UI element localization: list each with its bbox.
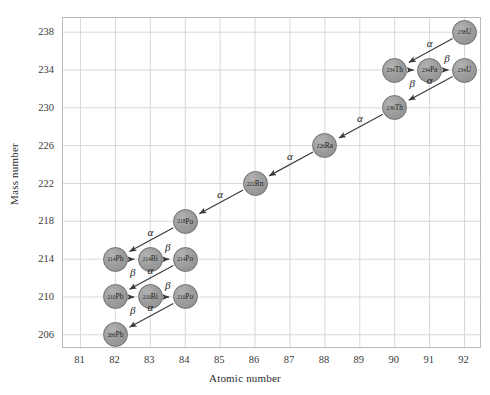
nuclide-symbol: Ra xyxy=(325,142,333,149)
y-tick-238: 238 xyxy=(22,26,54,37)
nuclide-symbol: Bi xyxy=(151,293,158,300)
x-tick-88: 88 xyxy=(319,354,330,365)
x-tick-91: 91 xyxy=(423,354,434,365)
nuclide-symbol: Pb xyxy=(116,255,124,262)
nuclide-node-U238: 238U xyxy=(452,20,477,45)
x-tick-87: 87 xyxy=(284,354,295,365)
nuclide-node-Po218: 218Po xyxy=(173,209,198,234)
decay-mode-label-Pa234-to-U234: β xyxy=(444,52,449,64)
x-tick-90: 90 xyxy=(388,354,399,365)
x-tick-92: 92 xyxy=(458,354,469,365)
decay-mode-label-Bi210-to-Po210: β xyxy=(165,279,170,291)
y-tick-210: 210 xyxy=(22,290,54,301)
x-axis-title: Atomic number xyxy=(0,372,490,384)
nuclide-symbol: Pb xyxy=(116,331,124,338)
nuclide-node-Rn222: 222Rn xyxy=(243,171,268,196)
nuclide-symbol: Po xyxy=(185,293,193,300)
x-tick-82: 82 xyxy=(109,354,120,365)
decay-mode-label-Rn222-to-Po218: α xyxy=(217,188,223,200)
x-tick-84: 84 xyxy=(179,354,190,365)
y-axis-title: Mass number xyxy=(8,114,20,234)
nuclide-node-Pb214: 214Pb xyxy=(103,247,128,272)
y-tick-234: 234 xyxy=(22,64,54,75)
nuclide-symbol: Rn xyxy=(255,180,264,187)
decay-chain-chart: Mass number Atomic number 20621021421822… xyxy=(0,0,490,395)
nuclide-symbol: Bi xyxy=(151,255,158,262)
x-tick-89: 89 xyxy=(354,354,365,365)
nuclide-symbol: Pa xyxy=(430,66,437,73)
decay-mode-label-Pb210-to-Bi210: β xyxy=(130,304,135,316)
nuclide-symbol: U xyxy=(466,28,471,35)
decay-mode-label-Po218-to-Pb214: α xyxy=(147,226,153,238)
nuclide-symbol: Th xyxy=(395,66,403,73)
nuclide-symbol: Th xyxy=(395,104,403,111)
nuclide-symbol: Pb xyxy=(116,293,124,300)
y-tick-206: 206 xyxy=(22,328,54,339)
y-tick-230: 230 xyxy=(22,101,54,112)
decay-mode-label-Po214-to-Pb210: α xyxy=(147,264,153,276)
x-tick-85: 85 xyxy=(214,354,225,365)
decay-mode-label-U234-to-Th230: α xyxy=(427,74,433,86)
nuclide-symbol: U xyxy=(466,66,471,73)
decay-mode-label-U238-to-Th234: α xyxy=(427,37,433,49)
x-tick-86: 86 xyxy=(249,354,260,365)
x-tick-81: 81 xyxy=(74,354,85,365)
nuclide-symbol: Po xyxy=(185,255,193,262)
x-tick-83: 83 xyxy=(144,354,155,365)
decay-mode-label-Ra226-to-Rn222: α xyxy=(287,150,293,162)
decay-mode-label-Th230-to-Ra226: α xyxy=(357,112,363,124)
y-tick-214: 214 xyxy=(22,253,54,264)
y-tick-226: 226 xyxy=(22,139,54,150)
plot-area: 238U234Th234Pa234U230Th226Ra222Rn218Po21… xyxy=(62,17,481,348)
decay-mode-label-Th234-to-Pa234: β xyxy=(409,77,414,89)
y-tick-222: 222 xyxy=(22,177,54,188)
nuclide-node-Th234: 234Th xyxy=(382,58,407,83)
nuclide-symbol: Po xyxy=(185,218,193,225)
nuclide-node-Po214: 214Po xyxy=(173,247,198,272)
decay-mode-label-Pb214-to-Bi214: β xyxy=(130,266,135,278)
decay-mode-label-Po210-to-Pb206: α xyxy=(147,301,153,313)
nuclide-node-U234: 234U xyxy=(452,58,477,83)
decay-mode-label-Bi214-to-Po214: β xyxy=(165,241,170,253)
y-tick-218: 218 xyxy=(22,215,54,226)
